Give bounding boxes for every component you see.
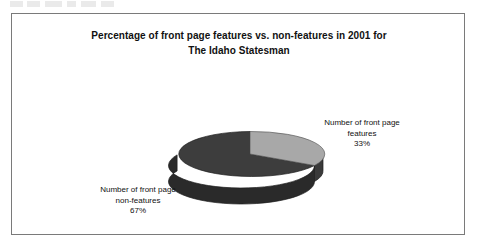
chart-title-line-2: The Idaho Statesman: [42, 43, 436, 58]
data-label-nonfeatures-line-1: Number of front page: [76, 185, 200, 196]
data-label-features-value: 33%: [300, 139, 424, 150]
data-label-nonfeatures-value: 67%: [76, 206, 200, 217]
chart-title: Percentage of front page features vs. no…: [42, 28, 436, 58]
chart-frame: Percentage of front page features vs. no…: [11, 13, 465, 235]
data-label-nonfeatures: Number of front page non-features 67%: [76, 185, 200, 217]
chart-title-line-1: Percentage of front page features vs. no…: [91, 30, 386, 41]
data-label-nonfeatures-line-2: non-features: [76, 196, 200, 207]
scan-artifact: [10, 1, 118, 7]
chart-screenshot: Percentage of front page features vs. no…: [0, 0, 478, 249]
data-label-features-line-1: Number of front page: [300, 118, 424, 129]
data-label-features: Number of front page features 33%: [300, 118, 424, 150]
data-label-features-line-2: features: [300, 129, 424, 140]
